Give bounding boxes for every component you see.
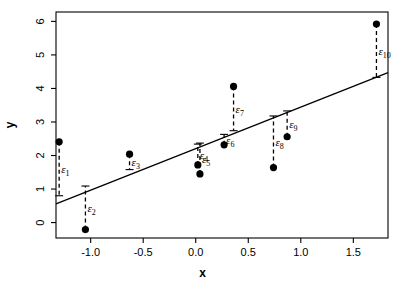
data-point (270, 164, 277, 171)
x-tick-label: 1.0 (293, 246, 308, 258)
x-tick-label: -0.5 (134, 246, 153, 258)
residual-label-subscript: 3 (136, 162, 140, 171)
data-point (194, 161, 201, 168)
residual-label-subscript: 2 (92, 208, 96, 217)
scatter-plot-figure: -1.0-0.50.00.51.01.5 0123456 ε1ε2ε3ε4ε5ε… (0, 0, 405, 291)
data-point (284, 133, 291, 140)
x-tick-label: -1.0 (81, 246, 100, 258)
residual-label-subscript: 1 (65, 169, 69, 178)
y-tick-label: 6 (34, 18, 46, 24)
residual-label-subscript: 9 (293, 124, 297, 133)
chart-canvas: -1.0-0.50.00.51.01.5 0123456 ε1ε2ε3ε4ε5ε… (0, 0, 405, 291)
residual-label-subscript: 8 (280, 142, 284, 151)
data-point (196, 170, 203, 177)
data-point (230, 83, 237, 90)
x-tick-label: 1.5 (346, 246, 361, 258)
y-axis-title: y (3, 75, 17, 175)
data-point (82, 226, 89, 233)
x-tick-label: 0.5 (241, 246, 256, 258)
residual-label-subscript: 5 (206, 159, 210, 168)
data-point (373, 20, 380, 27)
y-tick-label: 2 (34, 152, 46, 158)
residual-label-subscript: 6 (230, 140, 234, 149)
residual-label-subscript: 10 (383, 51, 391, 60)
y-tick-label: 1 (34, 186, 46, 192)
data-point (56, 138, 63, 145)
y-tick-label: 3 (34, 119, 46, 125)
y-tick-label: 4 (34, 85, 46, 91)
residual-label-subscript: 7 (240, 109, 244, 118)
y-tick-label: 5 (34, 52, 46, 58)
x-axis-title: x (0, 266, 405, 280)
y-tick-label: 0 (34, 220, 46, 226)
x-tick-label: 0.0 (188, 246, 203, 258)
